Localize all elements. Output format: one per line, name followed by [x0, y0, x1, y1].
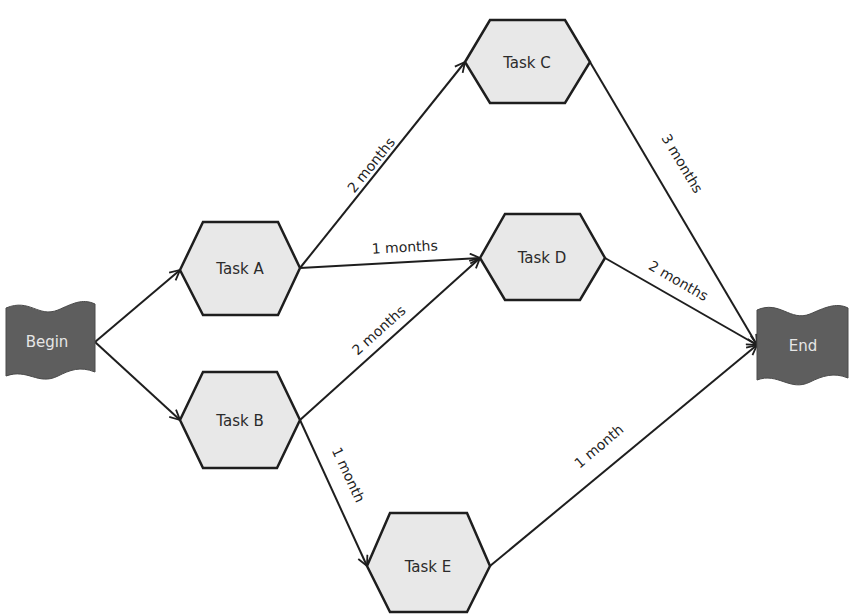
- edge-task-d-end: [605, 258, 757, 345]
- end-label: End: [789, 337, 818, 355]
- task-d-label: Task D: [517, 249, 567, 267]
- edge-label-task-a-task-c: 2 months: [344, 134, 398, 195]
- edge-task-e-end: [490, 345, 757, 566]
- edge-task-a-task-c: [300, 62, 465, 268]
- task-c-node[interactable]: Task C: [465, 20, 590, 103]
- task-e-label: Task E: [404, 558, 452, 576]
- edge-label-task-c-end: 3 months: [658, 131, 706, 196]
- edge-label-task-e-end: 1 month: [571, 421, 626, 471]
- end-node[interactable]: End: [757, 306, 848, 385]
- edge-begin-task-b: [95, 342, 180, 420]
- begin-label: Begin: [26, 333, 69, 351]
- edge-begin-task-a: [95, 270, 180, 342]
- edge-task-c-end: [590, 62, 757, 345]
- edge-label-task-d-end: 2 months: [646, 257, 711, 304]
- edge-task-b-task-d: [300, 258, 480, 420]
- task-a-label: Task A: [215, 260, 264, 278]
- network-diagram: 2 months 1 months 2 months 1 month 3 mon…: [0, 0, 853, 616]
- task-b-node[interactable]: Task B: [180, 372, 300, 468]
- task-e-node[interactable]: Task E: [367, 513, 490, 612]
- edge-label-task-a-task-d: 1 months: [371, 237, 438, 256]
- task-a-node[interactable]: Task A: [180, 222, 300, 315]
- task-c-label: Task C: [502, 54, 551, 72]
- task-d-node[interactable]: Task D: [480, 214, 605, 300]
- begin-node[interactable]: Begin: [6, 302, 95, 380]
- task-b-label: Task B: [215, 412, 263, 430]
- edge-task-a-task-d: [300, 258, 480, 268]
